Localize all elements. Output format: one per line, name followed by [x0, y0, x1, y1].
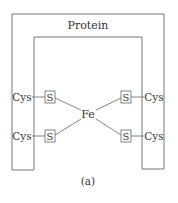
cys-label-right-lower: Cys [144, 130, 163, 142]
sulfur-label-right-lower: S [123, 131, 130, 142]
cys-label-left-lower: Cys [12, 130, 31, 142]
sulfur-label-right-upper: S [123, 92, 130, 103]
iron-label: Fe [81, 108, 95, 121]
sulfur-label-left-lower: S [47, 131, 54, 142]
cys-label-right-upper: Cys [144, 91, 163, 103]
bond-s-fe-left-lower [55, 119, 81, 135]
protein-label: Protein [68, 19, 109, 32]
protein-outline [12, 14, 164, 170]
iron-sulfur-protein-diagram: Protein S S S S Cys Cys Cys Cys Fe (a) [0, 0, 178, 203]
bond-s-fe-right-lower [96, 119, 121, 135]
figure-caption: (a) [81, 175, 95, 187]
bond-s-fe-right-upper [96, 98, 121, 110]
bond-s-fe-left-upper [55, 98, 81, 110]
sulfur-label-left-upper: S [47, 92, 54, 103]
cys-label-left-upper: Cys [12, 91, 31, 103]
